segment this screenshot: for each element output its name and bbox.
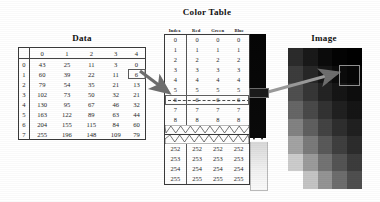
ct-red-8: 8 (187, 115, 208, 125)
torn-edge-lower-icon (165, 135, 249, 144)
data-cell-0-1[interactable]: 25 (55, 59, 79, 70)
data-cell-6-4[interactable]: 60 (128, 119, 146, 129)
color-table-row-254[interactable]: 254254254254 (165, 164, 249, 174)
ct-red-1: 1 (187, 45, 208, 55)
image-pixel-4-2 (318, 119, 333, 137)
ct-index-1: 1 (165, 45, 187, 55)
color-table-row-3[interactable]: 3333 (165, 65, 249, 75)
data-cell-1-4[interactable]: 6 (128, 69, 146, 79)
data-cell-0-0[interactable]: 43 (29, 59, 55, 70)
image-pixel-7-2 (318, 171, 333, 189)
color-swatch-strip-light (250, 142, 268, 191)
color-table: Index Red Green Blue 0000111122223333444… (164, 28, 250, 135)
ct-red-6: 6 (187, 95, 208, 105)
image-pixel-0-0 (288, 48, 303, 66)
data-col-header-2: 2 (79, 48, 103, 59)
color-table-row-1[interactable]: 1111 (165, 45, 249, 55)
data-row-header-0: 0 (19, 59, 30, 70)
data-cell-3-3[interactable]: 32 (104, 89, 128, 99)
data-cell-7-2[interactable]: 148 (79, 129, 103, 140)
ct-green-252: 252 (208, 144, 229, 154)
ct-blue-254: 254 (228, 164, 249, 174)
image-pixel-3-1 (303, 101, 318, 119)
color-table-row-4[interactable]: 4444 (165, 75, 249, 85)
image-pixel-3-2 (318, 101, 333, 119)
image-pixel-5-3 (332, 136, 347, 154)
data-cell-3-2[interactable]: 50 (79, 89, 103, 99)
color-table-row-5[interactable]: 5555 (165, 85, 249, 95)
color-table-row-0[interactable]: 0000 (165, 35, 249, 45)
ct-blue-4: 4 (228, 75, 249, 85)
ct-green-4: 4 (208, 75, 229, 85)
image-pixel-3-4 (347, 101, 362, 119)
ct-index-7: 7 (165, 105, 187, 115)
data-cell-5-2[interactable]: 89 (79, 109, 103, 119)
image-pixel-4-3 (332, 119, 347, 137)
data-cell-4-1[interactable]: 95 (55, 99, 79, 109)
data-cell-7-3[interactable]: 109 (104, 129, 128, 140)
data-row-header-6: 6 (19, 119, 30, 129)
data-row-header-5: 5 (19, 109, 30, 119)
data-cell-5-0[interactable]: 163 (29, 109, 55, 119)
data-cell-2-3[interactable]: 21 (104, 79, 128, 89)
data-cell-1-0[interactable]: 60 (29, 69, 55, 79)
data-cell-2-4[interactable]: 13 (128, 79, 146, 89)
data-cell-0-3[interactable]: 3 (104, 59, 128, 70)
color-table-header-row: Index Red Green Blue (164, 28, 250, 33)
data-cell-5-3[interactable]: 63 (104, 109, 128, 119)
data-cell-2-2[interactable]: 35 (79, 79, 103, 89)
data-cell-3-0[interactable]: 102 (29, 89, 55, 99)
data-cell-6-1[interactable]: 155 (55, 119, 79, 129)
ct-blue-252: 252 (228, 144, 249, 154)
data-cell-4-4[interactable]: 32 (128, 99, 146, 109)
data-panel-title: Data (46, 33, 118, 43)
data-cell-4-0[interactable]: 130 (29, 99, 55, 109)
color-table-row-6[interactable]: 6666 (165, 95, 249, 105)
data-cell-0-4[interactable]: 0 (128, 59, 146, 70)
image-pixel-2-0 (288, 83, 303, 101)
data-cell-0-2[interactable]: 11 (79, 59, 103, 70)
ct-blue-5: 5 (228, 85, 249, 95)
data-table-row: 27954352113 (19, 79, 146, 89)
ct-red-4: 4 (187, 75, 208, 85)
image-pixel-6-0 (288, 154, 303, 172)
image-pixel-2-4 (347, 83, 362, 101)
data-cell-6-2[interactable]: 115 (79, 119, 103, 129)
color-table-row-255[interactable]: 255255255255 (165, 174, 249, 184)
data-cell-6-0[interactable]: 204 (29, 119, 55, 129)
data-cell-3-4[interactable]: 21 (128, 89, 146, 99)
data-cell-6-3[interactable]: 84 (104, 119, 128, 129)
color-table-row-7[interactable]: 7777 (165, 105, 249, 115)
data-cell-1-2[interactable]: 22 (79, 69, 103, 79)
ct-green-3: 3 (208, 65, 229, 75)
color-table-header-green: Green (207, 28, 229, 33)
color-table-row-252[interactable]: 252252252252 (165, 144, 249, 154)
color-table-header-index: Index (164, 28, 186, 33)
data-cell-5-1[interactable]: 122 (55, 109, 79, 119)
data-cell-2-1[interactable]: 54 (55, 79, 79, 89)
ct-blue-0: 0 (228, 35, 249, 45)
ct-green-255: 255 (208, 174, 229, 184)
ct-blue-2: 2 (228, 55, 249, 65)
data-cell-4-2[interactable]: 67 (79, 99, 103, 109)
data-cell-3-1[interactable]: 73 (55, 89, 79, 99)
data-cell-7-4[interactable]: 79 (128, 129, 146, 140)
data-cell-1-1[interactable]: 39 (55, 69, 79, 79)
ct-index-252: 252 (165, 144, 187, 154)
color-swatch-highlight (249, 88, 269, 98)
image-pixel-7-4 (347, 171, 362, 189)
data-cell-4-3[interactable]: 46 (104, 99, 128, 109)
data-cell-2-0[interactable]: 79 (29, 79, 55, 89)
data-cell-1-3[interactable]: 11 (104, 69, 128, 79)
data-cell-7-0[interactable]: 255 (29, 129, 55, 140)
data-col-header-1: 1 (55, 48, 79, 59)
ct-blue-8: 8 (228, 115, 249, 125)
data-table-row: 62041551158460 (19, 119, 146, 129)
data-cell-5-4[interactable]: 44 (128, 109, 146, 119)
color-table-row-253[interactable]: 253253253253 (165, 154, 249, 164)
data-table-row: 5163122896344 (19, 109, 146, 119)
color-table-row-8[interactable]: 8888 (165, 115, 249, 125)
color-table-row-2[interactable]: 2222 (165, 55, 249, 65)
ct-blue-7: 7 (228, 105, 249, 115)
data-cell-7-1[interactable]: 196 (55, 129, 79, 140)
